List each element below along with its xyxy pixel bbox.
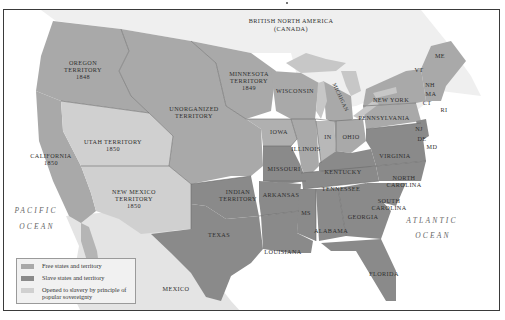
label-rhode-island: RI: [441, 106, 448, 113]
label-indian-2: TERRITORY: [219, 195, 257, 202]
label-illinois: ILLINOIS: [291, 145, 320, 152]
legend-item-open: Opened to slavery by principle of popula…: [21, 286, 131, 302]
label-pacific-2: OCEAN: [19, 222, 55, 231]
label-new-mexico-3: 1850: [127, 202, 141, 209]
label-wisconsin: WISCONSIN: [276, 87, 314, 94]
label-new-york: NEW YORK: [373, 96, 409, 103]
label-maine: ME: [435, 52, 445, 59]
legend-swatch-slave: [21, 276, 34, 281]
label-utah-1: UTAH TERRITORY: [84, 138, 142, 145]
label-alabama: ALABAMA: [314, 227, 348, 234]
label-tennessee: TENNESSEE: [322, 185, 360, 192]
label-arkansas: ARKANSAS: [263, 191, 300, 198]
label-south-carolina-1: SOUTH: [378, 197, 401, 204]
label-minnesota-3: 1849: [242, 84, 256, 91]
label-pacific-1: PACIFIC: [13, 206, 57, 215]
label-indian-1: INDIAN: [226, 188, 251, 195]
label-california-2: 1850: [44, 159, 58, 166]
label-north-carolina-2: CAROLINA: [386, 181, 421, 188]
label-unorganized-2: TERRITORY: [175, 112, 213, 119]
label-atlantic-1: ATLANTIC: [405, 216, 458, 225]
label-minnesota-2: TERRITORY: [230, 77, 268, 84]
label-oregon-2: TERRITORY: [64, 66, 102, 73]
map-legend: Free states and territory Slave states a…: [16, 258, 136, 304]
legend-label-free: Free states and territory: [42, 262, 102, 269]
label-new-hampshire: NH: [425, 81, 435, 88]
label-connecticut: CT: [423, 99, 432, 106]
legend-swatch-open: [21, 288, 34, 293]
label-canada: (CANADA): [274, 25, 308, 33]
label-utah-2: 1850: [106, 145, 120, 152]
label-new-mexico-1: NEW MEXICO: [112, 188, 156, 195]
label-minnesota-1: MINNESOTA: [229, 70, 269, 77]
label-new-mexico-2: TERRITORY: [115, 195, 153, 202]
label-iowa: IOWA: [270, 128, 288, 135]
label-missouri: MISSOURI: [268, 165, 301, 172]
region-arkansas: [259, 181, 301, 216]
label-mississippi: MS: [301, 209, 311, 216]
label-delaware: DE: [417, 135, 426, 142]
label-maryland: MD: [427, 143, 438, 150]
legend-label-open: Opened to slavery by principle of popula…: [42, 286, 131, 300]
label-pennsylvania: PENNSYLVANIA: [358, 114, 409, 121]
legend-item-free: Free states and territory: [21, 262, 131, 273]
label-new-jersey: NJ: [415, 125, 423, 132]
label-south-carolina-2: CAROLINA: [371, 204, 406, 211]
label-british-north-america: BRITISH NORTH AMERICA: [249, 17, 334, 24]
label-oregon-3: 1848: [76, 73, 90, 80]
legend-item-slave: Slave states and territory: [21, 274, 131, 285]
label-oregon-1: OREGON: [69, 59, 97, 66]
label-mexico: MEXICO: [163, 285, 190, 292]
legend-label-slave: Slave states and territory: [42, 274, 104, 281]
label-kentucky: KENTUCKY: [324, 168, 361, 175]
legend-swatch-free: [21, 264, 34, 269]
label-unorganized-1: UNORGANIZED: [169, 105, 219, 112]
label-indiana: IN: [324, 133, 331, 140]
label-texas: TEXAS: [208, 231, 230, 238]
label-north-carolina-1: NORTH: [393, 174, 416, 181]
label-louisiana: LOUISIANA: [264, 248, 301, 255]
label-atlantic-2: OCEAN: [415, 231, 451, 240]
label-california-1: CALIFORNIA: [30, 152, 72, 159]
label-massachusetts: MA: [426, 90, 437, 97]
scan-speck: [286, 2, 288, 4]
label-ohio: OHIO: [342, 133, 359, 140]
label-florida: FLORIDA: [369, 270, 399, 277]
label-virginia: VIRGINIA: [379, 152, 411, 159]
label-vermont: VT: [414, 66, 423, 73]
label-georgia: GEORGIA: [348, 213, 379, 220]
